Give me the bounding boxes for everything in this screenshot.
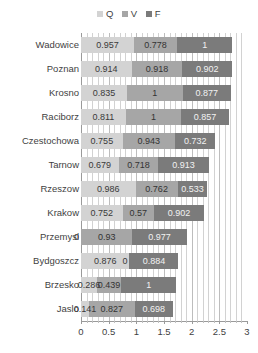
bar-row[interactable]: 0.83510.877 (81, 85, 247, 101)
bar-row[interactable]: 0.81110.857 (81, 109, 247, 125)
bar-segment-v[interactable]: 0.918 (132, 61, 183, 77)
bar-row[interactable]: 0.6790.7180.913 (81, 157, 247, 173)
bar-value-label: 1 (201, 41, 208, 50)
x-axis-tick (170, 321, 171, 323)
x-axis-tick (175, 321, 176, 323)
bar-value-label: 1 (151, 89, 158, 98)
bar-value-label: 0.876 (93, 257, 118, 266)
bar-segment-q[interactable]: 0.141 (81, 301, 89, 317)
x-axis-tick-label: 0.5 (102, 326, 115, 337)
legend-item-q[interactable]: Q (97, 9, 113, 19)
bar-segment-q[interactable]: 0.752 (81, 205, 123, 221)
bar-row[interactable]: 0.9570.7781 (81, 37, 247, 53)
x-axis-tick (164, 321, 165, 324)
bar-row[interactable]: 0.7550.9430.732 (81, 133, 247, 149)
bar-segment-v[interactable]: 0.93 (81, 229, 132, 245)
x-axis-tick (153, 321, 154, 323)
bar-value-label: 0.811 (92, 113, 116, 122)
legend-label: Q (106, 9, 113, 19)
bar-row[interactable]: 0.9140.9180.902 (81, 61, 247, 77)
bar-segment-v[interactable]: 0.439 (97, 277, 121, 293)
bar-segment-f[interactable]: 0.857 (181, 109, 228, 125)
bar-value-label: 1 (145, 281, 152, 290)
bar-segment-q[interactable]: 0.286 (81, 277, 97, 293)
bar-value-label: 0.141 (73, 305, 98, 314)
legend-item-f[interactable]: F (146, 9, 160, 19)
bar-row[interactable]: 00.930.977 (81, 229, 247, 245)
x-axis-tick-label: 1.5 (157, 326, 170, 337)
x-axis-tick (197, 321, 198, 323)
legend-item-v[interactable]: V (122, 9, 137, 19)
category-label: Wadowice (36, 37, 79, 53)
bar-value-label: 0.835 (92, 89, 117, 98)
category-label: Bydgoszcz (33, 253, 79, 269)
bar-segment-f[interactable]: 0.884 (129, 253, 178, 269)
bar-segment-f[interactable]: 0.902 (154, 205, 204, 221)
category-label: Poznan (47, 61, 79, 77)
x-axis-tick (87, 321, 88, 323)
x-axis-tick-label: 2 (189, 326, 194, 337)
x-axis-tick (214, 321, 215, 323)
bar-segment-f[interactable]: 0.698 (135, 301, 174, 317)
bar-row[interactable]: 0.2860.4391 (81, 277, 247, 293)
bar-segment-f[interactable]: 1 (121, 277, 176, 293)
category-axis-labels: WadowicePoznanKrosnoRaciborzCzestochowaT… (0, 33, 79, 321)
x-axis-tick (131, 321, 132, 323)
bar-segment-q[interactable]: 0.755 (81, 133, 123, 149)
bar-row[interactable]: 0.1410.8270.698 (81, 301, 247, 317)
x-axis-tick (225, 321, 226, 323)
bar-value-label: 0.913 (171, 161, 196, 170)
bar-segment-q[interactable]: 0.914 (81, 61, 132, 77)
x-axis-tick (136, 321, 137, 324)
x-axis-tick (208, 321, 209, 323)
x-axis-tick (219, 321, 220, 324)
bar-segment-q[interactable]: 0.957 (81, 37, 134, 53)
x-axis-tick (181, 321, 182, 323)
bar-segment-f[interactable]: 1 (177, 37, 232, 53)
bar-segment-v[interactable]: 0.943 (123, 133, 175, 149)
x-axis-tick (109, 321, 110, 324)
x-axis-tick (186, 321, 187, 323)
bar-row[interactable]: 0.7520.570.902 (81, 205, 247, 221)
bar-value-label: 0.439 (97, 281, 122, 290)
bar-segment-f[interactable]: 0.877 (183, 85, 232, 101)
bar-row[interactable]: 0.87600.884 (81, 253, 247, 269)
bar-segment-v[interactable]: 1 (127, 85, 182, 101)
x-axis-tick (147, 321, 148, 323)
bar-row[interactable]: 0.9860.7620.533 (81, 181, 247, 197)
bar-value-label: 0.902 (195, 65, 220, 74)
plot-area: 0.9570.77810.9140.9180.9020.83510.8770.8… (81, 33, 247, 321)
x-axis-tick (236, 321, 237, 323)
bar-value-label: 0.902 (167, 209, 192, 218)
bar-segment-f[interactable]: 0.732 (175, 133, 216, 149)
x-axis-tick (192, 321, 193, 324)
bar-value-label: 0.918 (145, 65, 170, 74)
x-axis-tick (92, 321, 93, 323)
legend-swatch-icon (97, 11, 103, 17)
chart-legend: QVF (0, 7, 258, 20)
bar-segment-f[interactable]: 0.977 (132, 229, 186, 245)
bar-segment-v[interactable]: 0.718 (119, 157, 159, 173)
bar-value-label: 1 (150, 113, 157, 122)
bar-segment-v[interactable]: 0.57 (123, 205, 155, 221)
bar-segment-v[interactable]: 1 (126, 109, 181, 125)
bar-segment-v[interactable]: 0.778 (134, 37, 177, 53)
bar-segment-f[interactable]: 0.913 (158, 157, 209, 173)
bar-segment-q[interactable]: 0.835 (81, 85, 127, 101)
bar-value-label: 0.762 (144, 185, 169, 194)
x-axis-tick (241, 321, 242, 323)
bar-value-label: 0.698 (142, 305, 167, 314)
bar-segment-f[interactable]: 0.533 (178, 181, 207, 197)
category-label: Raciborz (42, 109, 80, 125)
bar-segment-q[interactable]: 0.986 (81, 181, 136, 197)
bar-value-label: 0.93 (97, 233, 117, 242)
bar-value-label: 0.877 (195, 89, 220, 98)
bar-segment-v[interactable]: 0.762 (136, 181, 178, 197)
x-axis-tick-label: 2.5 (213, 326, 226, 337)
bar-segment-q[interactable]: 0.811 (81, 109, 126, 125)
bar-segment-q[interactable]: 0.679 (81, 157, 119, 173)
legend-swatch-icon (122, 11, 128, 17)
category-label: Brzesko (45, 277, 79, 293)
bar-segment-f[interactable]: 0.902 (182, 61, 232, 77)
category-label: Czestochowa (22, 133, 79, 149)
